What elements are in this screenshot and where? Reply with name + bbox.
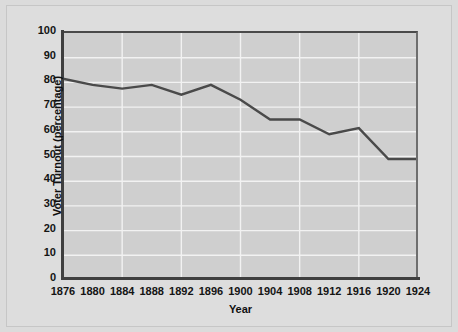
x-axis-title: Year <box>63 303 418 315</box>
x-axis-line <box>61 277 420 280</box>
chart-page: 0102030405060708090100 18761880188418881… <box>0 0 458 332</box>
y-axis-title: Voter Turnout (percentage) <box>51 36 63 256</box>
x-tick-label: 1924 <box>396 286 440 297</box>
x-axis-tick-labels: 1876188018841888189218961900190419081912… <box>0 286 458 302</box>
vertical-gridlines <box>122 33 359 278</box>
series-line-chart <box>63 33 418 278</box>
plot-area <box>63 31 418 278</box>
y-axis-title-host: Voter Turnout (percentage) <box>20 0 21 1</box>
y-tick-label: 100 <box>26 25 56 36</box>
y-tick-label: 0 <box>26 272 56 283</box>
